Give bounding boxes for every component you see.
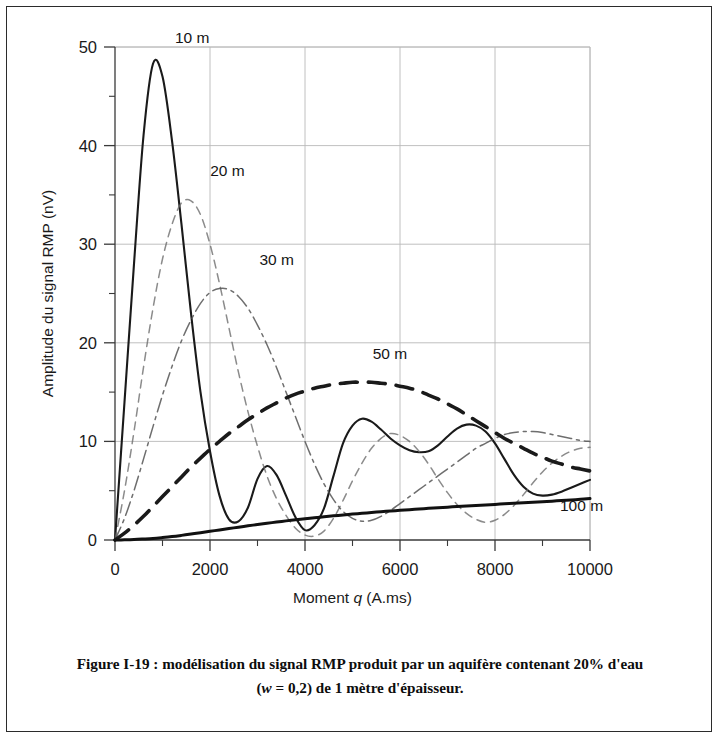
curve-label-10-m: 10 m [175, 29, 209, 46]
curve-20-m [115, 200, 590, 540]
y-axis-title: Amplitude du signal RMP (nV) [39, 190, 56, 397]
gridlines [115, 47, 590, 540]
x-tick-label: 8000 [477, 560, 514, 578]
curve-label-30-m: 30 m [259, 251, 293, 268]
data-curves [115, 60, 590, 540]
axis-ticks [104, 47, 590, 551]
x-axis-title: Moment q (A.ms) [293, 589, 412, 606]
curve-100-m [115, 499, 590, 540]
y-tick-label: 0 [88, 531, 97, 549]
axis-tick-labels: 010203040500200040006000800010000 [79, 38, 613, 578]
y-tick-label: 30 [79, 235, 97, 253]
curve-50-m [115, 382, 590, 540]
x-tick-label: 2000 [192, 560, 229, 578]
y-tick-label: 10 [79, 432, 97, 450]
x-axis-title-post: (A.ms) [362, 589, 412, 606]
curve-10-m [115, 60, 590, 540]
x-tick-label: 0 [110, 560, 119, 578]
plot-frame [115, 47, 590, 540]
x-tick-label: 4000 [287, 560, 324, 578]
caption-line-2: (w = 0,2) de 1 mètre d'épaisseur. [24, 676, 696, 700]
y-tick-label: 40 [79, 137, 97, 155]
x-tick-label: 6000 [382, 560, 419, 578]
caption-variable-w: w [262, 679, 272, 696]
chart-plot: 010203040500200040006000800010000 10 m20… [0, 0, 722, 620]
y-tick-label: 20 [79, 334, 97, 352]
curve-label-50-m: 50 m [373, 345, 407, 362]
figure-caption: Figure I-19 : modélisation du signal RMP… [24, 652, 696, 699]
y-tick-label: 50 [79, 38, 97, 56]
caption-line-2-post: = 0,2) de 1 mètre d'épaisseur. [272, 679, 464, 696]
curve-annotations: 10 m20 m30 m50 m100 m [175, 29, 603, 514]
x-tick-label: 10000 [567, 560, 613, 578]
curve-label-20-m: 20 m [210, 162, 244, 179]
x-axis-title-pre: Moment [293, 589, 353, 606]
caption-line-1: Figure I-19 : modélisation du signal RMP… [24, 652, 696, 676]
figure-container: 010203040500200040006000800010000 10 m20… [0, 0, 722, 750]
curve-label-100-m: 100 m [560, 497, 603, 514]
chart-svg: 010203040500200040006000800010000 10 m20… [0, 0, 722, 620]
